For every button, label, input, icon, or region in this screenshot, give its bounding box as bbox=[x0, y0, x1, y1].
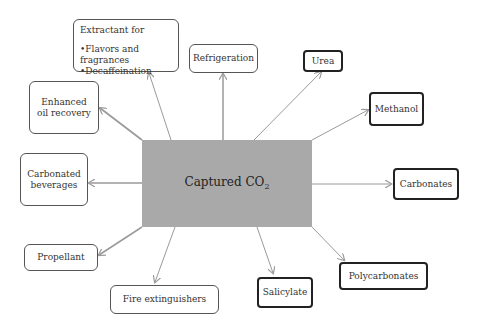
arrow-to-urea bbox=[254, 72, 321, 140]
propellant-node: Propellant bbox=[24, 244, 98, 271]
arrow-to-enhanced-oil-recovery bbox=[100, 108, 142, 140]
urea-label: Urea bbox=[312, 56, 335, 67]
extractant-item: Flavors and fragrances bbox=[80, 44, 172, 66]
arrow-to-propellant bbox=[99, 227, 142, 255]
arrow-to-salicylate bbox=[257, 227, 273, 273]
propellant-label: Propellant bbox=[37, 252, 84, 263]
polycarbonates-node: Polycarbonates bbox=[339, 262, 428, 290]
extractant-item: Decaffeination bbox=[80, 66, 172, 77]
polycarbonates-label: Polycarbonates bbox=[349, 271, 419, 282]
fire-extinguishers-label: Fire extinguishers bbox=[123, 294, 206, 305]
enhanced-oil-recovery-node: Enhanced oil recovery bbox=[29, 81, 99, 134]
extractant-title: Extractant for bbox=[80, 25, 144, 36]
salicylate-node: Salicylate bbox=[257, 277, 313, 308]
methanol-node: Methanol bbox=[369, 92, 424, 126]
carbonates-label: Carbonates bbox=[400, 179, 452, 190]
extractant-list: Flavors and fragrances Decaffeination bbox=[80, 44, 172, 77]
carbonates-node: Carbonates bbox=[393, 168, 459, 200]
refrigeration-node: Refrigeration bbox=[189, 44, 258, 73]
carbonated-beverages-line1: Carbonated bbox=[27, 169, 81, 180]
methanol-label: Methanol bbox=[375, 104, 418, 115]
arrow-to-extractant bbox=[149, 73, 171, 140]
arrow-to-methanol bbox=[312, 110, 368, 140]
carbonated-beverages-node: Carbonated beverages bbox=[20, 153, 88, 206]
urea-node: Urea bbox=[303, 50, 343, 72]
captured-co2-node: Captured CO2 bbox=[142, 140, 312, 227]
arrow-to-polycarbonates bbox=[312, 227, 344, 260]
refrigeration-label: Refrigeration bbox=[193, 53, 254, 64]
salicylate-label: Salicylate bbox=[263, 287, 308, 298]
carbonated-beverages-line2: beverages bbox=[31, 180, 78, 191]
extractant-node: Extractant for Flavors and fragrances De… bbox=[73, 19, 179, 72]
fire-extinguishers-node: Fire extinguishers bbox=[110, 285, 219, 314]
enhanced-oil-recovery-line2: oil recovery bbox=[37, 108, 91, 119]
center-label: Captured CO2 bbox=[184, 175, 269, 191]
enhanced-oil-recovery-line1: Enhanced bbox=[41, 97, 86, 108]
arrow-to-fire-extinguishers bbox=[155, 227, 175, 282]
